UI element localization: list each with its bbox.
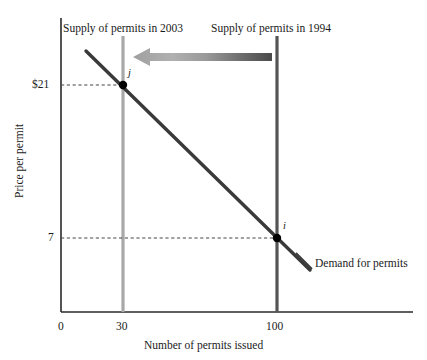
permits-supply-demand-figure: Price per permit Number of permits issue… bbox=[0, 0, 427, 360]
point-i-marker bbox=[273, 234, 281, 242]
point-i-label: i bbox=[283, 221, 286, 232]
y-tick-label-7: 7 bbox=[48, 232, 54, 244]
y-axis-title: Price per permit bbox=[14, 124, 26, 198]
point-j-marker bbox=[119, 81, 127, 89]
supply-shift-arrow bbox=[133, 48, 272, 66]
supply-2003-label: Supply of permits in 2003 bbox=[63, 23, 183, 35]
x-tick-label-100: 100 bbox=[266, 321, 283, 333]
chart-canvas bbox=[0, 0, 427, 360]
x-axis-title: Number of permits issued bbox=[144, 340, 263, 352]
y-tick-label-21: $21 bbox=[32, 79, 49, 91]
x-tick-label-30: 30 bbox=[116, 321, 128, 333]
x-tick-label-0: 0 bbox=[58, 321, 64, 333]
demand-curve-label: Demand for permits bbox=[315, 258, 408, 270]
supply-1994-label: Supply of permits in 1994 bbox=[211, 23, 331, 35]
point-j-label: j bbox=[128, 68, 131, 79]
